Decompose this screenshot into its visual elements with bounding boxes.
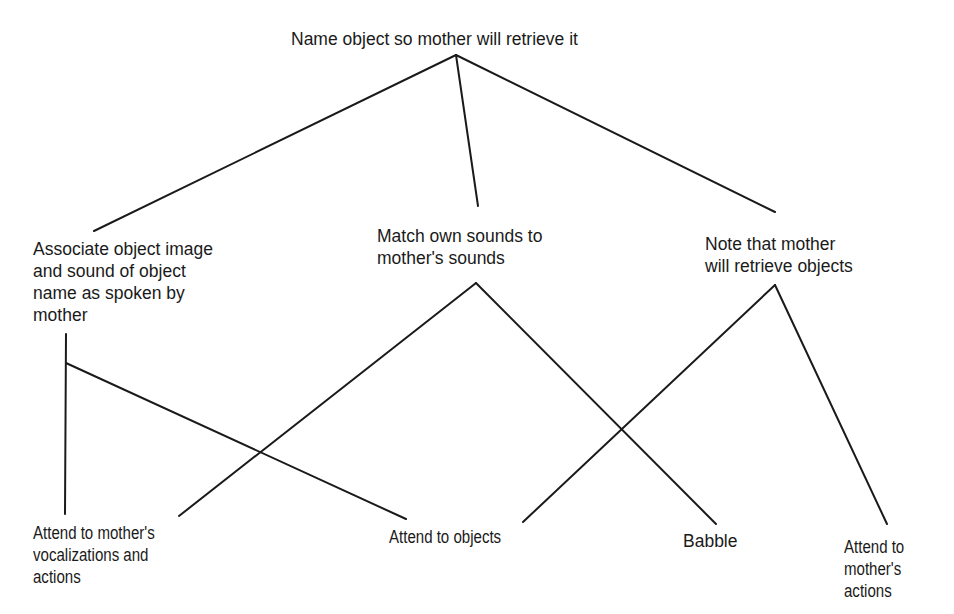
node-attend-vocalizations: Attend to mother's vocalizations and act… xyxy=(33,522,155,588)
node-note: Note that mother will retrieve objects xyxy=(705,233,853,277)
node-root: Name object so mother will retrieve it xyxy=(291,28,578,50)
node-match: Match own sounds to mother's sounds xyxy=(377,225,542,269)
edge-match-babble xyxy=(476,283,716,524)
edge-root-note xyxy=(456,55,775,212)
edge-associate-attend-objects xyxy=(66,363,406,519)
edge-root-match xyxy=(456,55,478,206)
edge-associate-stem xyxy=(65,334,66,514)
edge-root-associate xyxy=(94,55,456,231)
node-associate: Associate object image and sound of obje… xyxy=(33,238,213,326)
edge-match-attend-vocal xyxy=(179,283,476,516)
edge-note-attend-objects xyxy=(523,285,775,522)
node-attend-actions: Attend to mother's actions xyxy=(844,536,904,602)
node-babble: Babble xyxy=(683,530,738,552)
node-attend-objects: Attend to objects xyxy=(389,526,501,548)
edge-note-attend-actions xyxy=(775,285,887,524)
